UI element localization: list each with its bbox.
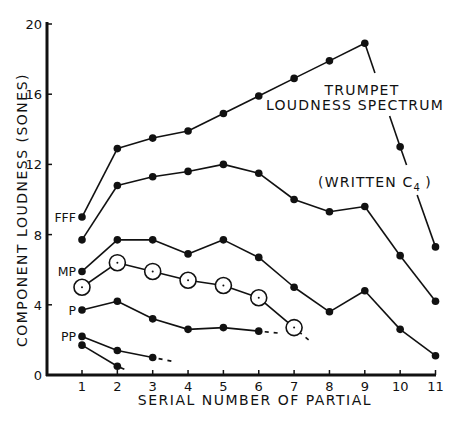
filled-marker	[432, 243, 440, 251]
filled-marker	[326, 308, 334, 316]
filled-marker	[220, 324, 228, 332]
annotation-loudness-spectrum: LOUDNESS SPECTRUM	[266, 97, 444, 113]
filled-marker	[396, 326, 404, 334]
x-tick-label: 11	[427, 379, 444, 394]
series-label-mp: MP	[58, 264, 77, 279]
filled-marker	[361, 40, 369, 48]
filled-marker	[184, 168, 192, 176]
y-tick-label: 4	[34, 298, 42, 313]
filled-marker	[361, 287, 369, 295]
y-axis-title: COMPONENT LOUDNESS (SONES)	[14, 73, 30, 347]
series-label-fff: FFF	[54, 210, 76, 225]
x-tick-label: 1	[78, 379, 86, 394]
annotation-trumpet: TRUMPET	[324, 82, 400, 98]
filled-marker	[255, 169, 263, 177]
filled-marker	[396, 252, 404, 260]
filled-marker	[149, 315, 157, 323]
filled-marker	[114, 182, 122, 190]
filled-marker	[184, 250, 192, 258]
filled-marker	[149, 354, 157, 362]
filled-marker	[255, 254, 263, 262]
filled-marker	[290, 283, 298, 291]
filled-marker	[220, 161, 228, 169]
series-mp-open-circles	[74, 255, 309, 340]
filled-marker	[78, 268, 86, 276]
filled-marker	[114, 362, 122, 370]
x-tick-label: 2	[113, 379, 121, 394]
series-pp	[78, 333, 171, 362]
filled-marker	[184, 326, 192, 334]
y-tick-label: 20	[25, 17, 42, 32]
filled-marker	[149, 134, 157, 142]
filled-marker	[432, 297, 440, 305]
filled-marker	[78, 213, 86, 221]
filled-marker	[290, 75, 298, 83]
filled-marker	[149, 236, 157, 244]
filled-marker	[184, 127, 192, 135]
series-labels: FFFMPPPP	[54, 210, 76, 344]
filled-marker	[255, 92, 263, 100]
filled-marker	[220, 110, 228, 118]
filled-marker	[326, 57, 334, 65]
filled-marker	[114, 145, 122, 153]
filled-marker	[78, 236, 86, 244]
series-pp-second	[78, 341, 124, 370]
filled-marker	[396, 143, 404, 151]
chart-canvas: 0481216201234567891011 FFFMPPPP COMPONEN…	[0, 0, 457, 421]
filled-marker	[326, 208, 334, 216]
x-tick-label: 10	[392, 379, 409, 394]
y-tick-label: 8	[34, 228, 42, 243]
y-tick-label: 0	[34, 368, 42, 383]
filled-marker	[78, 306, 86, 314]
filled-marker	[114, 347, 122, 355]
filled-marker	[361, 203, 369, 211]
series-label-pp: PP	[61, 329, 77, 344]
series-label-p: P	[68, 303, 76, 318]
annotation-written-c4: (WRITTEN C4)	[318, 174, 432, 193]
series-p	[78, 297, 277, 334]
trumpet-loudness-chart: 0481216201234567891011 FFFMPPPP COMPONEN…	[0, 0, 457, 421]
filled-marker	[220, 236, 228, 244]
filled-marker	[432, 352, 440, 360]
filled-marker	[149, 173, 157, 181]
x-axis-title: SERIAL NUMBER OF PARTIAL	[138, 392, 372, 408]
filled-marker	[78, 333, 86, 341]
filled-marker	[78, 341, 86, 349]
filled-marker	[255, 327, 263, 335]
filled-marker	[114, 236, 122, 244]
filled-marker	[114, 297, 122, 305]
filled-marker	[290, 196, 298, 204]
series-fff	[78, 40, 439, 251]
